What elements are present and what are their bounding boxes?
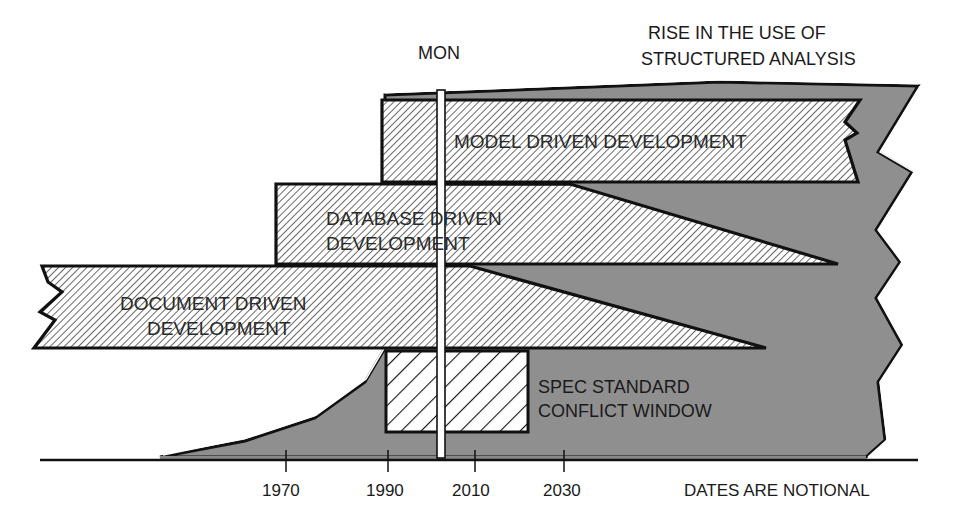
axis-tick-label-2010: 2010 bbox=[452, 482, 490, 501]
axis-tick-label-1970: 1970 bbox=[262, 482, 300, 501]
mon-marker-line bbox=[437, 90, 445, 458]
conflict-window-label-line-1: SPEC STANDARD bbox=[538, 378, 690, 398]
conflict-window bbox=[386, 351, 528, 432]
band-label-document-line-2: DEVELOPMENT bbox=[147, 319, 291, 340]
axis-tick-label-1990: 1990 bbox=[366, 482, 404, 501]
rise-title-line-1: RISE IN THE USE OF bbox=[648, 24, 826, 44]
rise-title: RISE IN THE USE OF bbox=[648, 24, 826, 44]
band-label-document-line-1: DOCUMENT DRIVEN bbox=[120, 294, 307, 315]
dates-notional-note: DATES ARE NOTIONAL bbox=[684, 482, 870, 501]
structured-analysis-diagram bbox=[0, 0, 954, 525]
conflict-window-label-line-2: CONFLICT WINDOW bbox=[538, 402, 712, 422]
rise-title-2: STRUCTURED ANALYSIS bbox=[641, 50, 856, 70]
band-label-model-driven: MODEL DRIVEN DEVELOPMENT bbox=[454, 132, 747, 153]
band-label-database-line-2: DEVELOPMENT bbox=[326, 234, 470, 255]
axis-tick-label-2030: 2030 bbox=[543, 482, 581, 501]
rise-title-line-2: STRUCTURED ANALYSIS bbox=[641, 50, 856, 70]
mon-label: MON bbox=[418, 44, 460, 64]
band-label-database-line-1: DATABASE DRIVEN bbox=[326, 209, 502, 230]
